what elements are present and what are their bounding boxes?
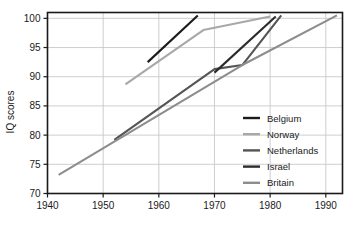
x-axis-tick-label: 1990 (315, 200, 338, 211)
x-axis-tick-label: 1970 (203, 200, 226, 211)
chart-canvas: 194019501960197019801990 707580859095100… (0, 0, 351, 227)
y-axis-title-text: IQ scores (5, 91, 16, 134)
legend-label-norway: Norway (267, 129, 299, 140)
y-axis-tick-label: 100 (24, 13, 41, 24)
x-axis-tick-label: 1940 (36, 200, 59, 211)
iq-scores-line-chart: 194019501960197019801990 707580859095100… (0, 0, 351, 227)
y-axis-tick-label: 80 (29, 130, 41, 141)
y-axis-tick-label: 70 (29, 188, 41, 199)
y-axis-tick-label: 75 (29, 159, 41, 170)
y-axis-tick-label: 85 (29, 100, 41, 111)
y-axis-title: IQ scores (5, 91, 16, 134)
x-axis-tick-label: 1950 (92, 200, 115, 211)
y-axis-tick-label: 95 (29, 42, 41, 53)
legend-label-israel: Israel (267, 161, 290, 172)
legend-label-netherlands: Netherlands (267, 145, 318, 156)
legend-label-britain: Britain (267, 177, 294, 188)
y-axis-tick-label: 90 (29, 71, 41, 82)
x-axis-tick-label: 1960 (148, 200, 171, 211)
legend-label-belgium: Belgium (267, 113, 301, 124)
x-axis-tick-label: 1980 (259, 200, 282, 211)
